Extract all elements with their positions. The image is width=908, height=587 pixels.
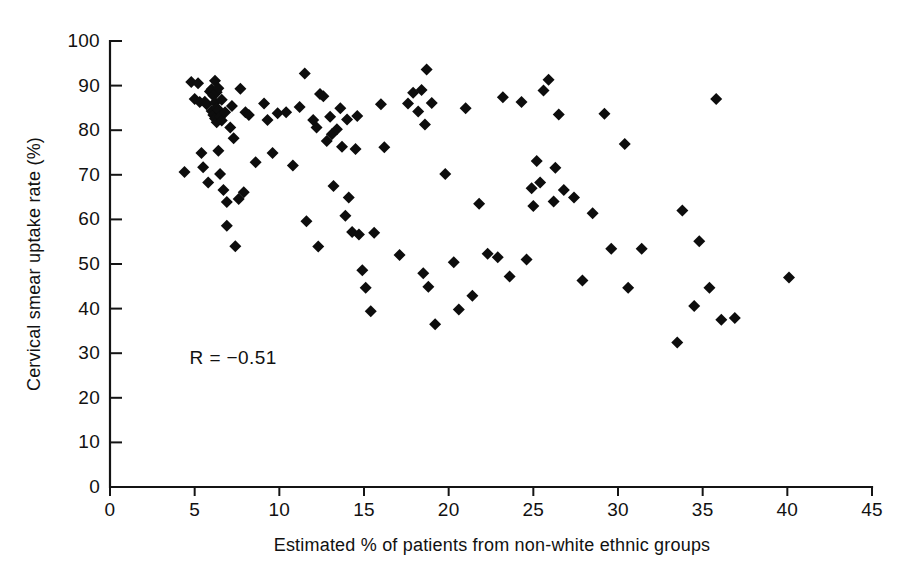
data-point xyxy=(783,271,795,283)
data-point xyxy=(179,166,191,178)
y-tick-label: 60 xyxy=(78,208,100,229)
data-point xyxy=(300,215,312,227)
data-point xyxy=(688,300,700,312)
data-point xyxy=(417,267,429,279)
data-point xyxy=(521,254,533,266)
data-point xyxy=(299,68,311,80)
data-point xyxy=(234,83,246,95)
x-tick-label: 10 xyxy=(268,499,290,520)
y-tick-label: 10 xyxy=(78,431,100,452)
data-point xyxy=(350,143,362,155)
data-point xyxy=(703,282,715,294)
data-point xyxy=(375,98,387,110)
data-point xyxy=(693,235,705,247)
data-point xyxy=(636,243,648,255)
data-point xyxy=(537,85,549,97)
data-point xyxy=(568,192,580,204)
data-point xyxy=(531,155,543,167)
data-point xyxy=(339,210,351,222)
data-point xyxy=(336,141,348,153)
y-tick-label: 20 xyxy=(78,387,100,408)
data-point xyxy=(287,159,299,171)
y-tick-label: 100 xyxy=(67,30,100,51)
data-point xyxy=(328,180,340,192)
data-point xyxy=(343,192,355,204)
x-tick-label: 30 xyxy=(607,499,629,520)
data-point xyxy=(197,161,209,173)
data-point xyxy=(429,318,441,330)
x-tick-label: 45 xyxy=(861,499,883,520)
data-point xyxy=(466,290,478,302)
y-axis-label: Cervical smear uptake rate (%) xyxy=(24,137,44,391)
x-tick-label: 5 xyxy=(189,499,200,520)
data-point xyxy=(261,114,273,126)
data-point xyxy=(378,141,390,153)
data-point xyxy=(605,243,617,255)
data-point xyxy=(729,312,741,324)
data-point xyxy=(598,108,610,120)
data-point xyxy=(365,305,377,317)
data-point xyxy=(224,122,236,134)
data-point xyxy=(294,101,306,113)
x-tick-label: 40 xyxy=(776,499,798,520)
y-tick-label: 30 xyxy=(78,342,100,363)
data-point xyxy=(334,102,346,114)
data-point xyxy=(217,184,229,196)
data-point xyxy=(527,200,539,212)
data-point xyxy=(394,249,406,261)
y-tick-label: 90 xyxy=(78,75,100,96)
data-point xyxy=(250,156,262,168)
data-point xyxy=(426,97,438,109)
data-point xyxy=(710,93,722,105)
data-point xyxy=(267,147,279,159)
data-point xyxy=(497,91,509,103)
y-axis-ticks: 0102030405060708090100 xyxy=(67,30,122,497)
data-point xyxy=(619,138,631,150)
data-point xyxy=(460,102,472,114)
data-point xyxy=(558,184,570,196)
data-point xyxy=(676,204,688,216)
data-point xyxy=(553,109,565,121)
data-point xyxy=(421,64,433,76)
data-point xyxy=(229,240,241,252)
data-point xyxy=(195,147,207,159)
data-point xyxy=(258,97,270,109)
y-tick-label: 80 xyxy=(78,119,100,140)
x-tick-label: 15 xyxy=(353,499,375,520)
data-point xyxy=(422,281,434,293)
data-point xyxy=(482,248,494,260)
data-point xyxy=(453,303,465,315)
x-axis-label: Estimated % of patients from non-white e… xyxy=(274,535,711,555)
y-tick-label: 70 xyxy=(78,164,100,185)
data-point xyxy=(587,207,599,219)
x-tick-label: 20 xyxy=(438,499,460,520)
data-point xyxy=(439,168,451,180)
chart-canvas: 051015202530354045 010203040506070809010… xyxy=(0,0,908,587)
x-tick-label: 0 xyxy=(105,499,116,520)
data-point xyxy=(228,132,240,144)
data-point xyxy=(504,270,516,282)
data-point xyxy=(341,113,353,125)
data-point xyxy=(549,162,561,174)
axes-group: 051015202530354045 010203040506070809010… xyxy=(67,30,882,520)
data-point xyxy=(412,105,424,117)
data-point xyxy=(221,220,233,232)
data-point-group xyxy=(179,64,796,349)
data-point xyxy=(280,106,292,118)
data-point xyxy=(324,111,336,123)
data-point xyxy=(548,196,560,208)
data-point xyxy=(360,282,372,294)
data-point xyxy=(368,227,380,239)
data-point xyxy=(214,168,226,180)
data-point xyxy=(473,198,485,210)
annotation-group: R = −0.51 xyxy=(190,347,277,368)
x-tick-label: 25 xyxy=(522,499,544,520)
y-tick-label: 50 xyxy=(78,253,100,274)
data-point xyxy=(576,275,588,287)
data-point xyxy=(402,97,414,109)
data-point xyxy=(543,74,555,86)
y-tick-label: 0 xyxy=(89,476,100,497)
x-tick-label: 35 xyxy=(692,499,714,520)
scatter-plot-figure: 051015202530354045 010203040506070809010… xyxy=(0,0,908,587)
data-point xyxy=(351,110,363,122)
